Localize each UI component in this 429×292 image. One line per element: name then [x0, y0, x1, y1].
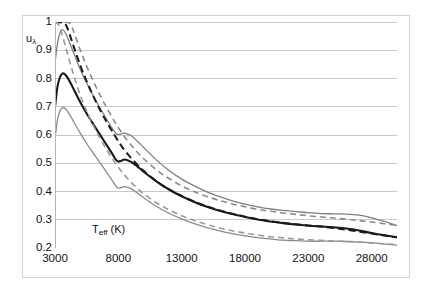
curve-upper-dashed-gray	[55, 22, 397, 225]
plot-area	[55, 22, 397, 248]
x-axis-tick-labels: 3000800013000180002300028000	[55, 252, 397, 272]
y-axis-tick-label: 1	[22, 16, 52, 28]
y-axis-tick-label: 0.5	[22, 157, 52, 169]
x-axis-tick-label: 23000	[292, 252, 324, 264]
y-axis-tick-label: 0.7	[22, 101, 52, 113]
data-curves	[55, 22, 397, 245]
y-axis-tick-labels: 10.90.80.70.60.50.40.30.2	[22, 22, 52, 248]
x-axis-title-unit: (K)	[107, 223, 125, 235]
y-axis-tick-label: 0.4	[22, 186, 52, 198]
y-axis-title-subscript: λ	[32, 37, 36, 46]
y-axis-title: uλ	[26, 33, 36, 47]
x-axis-tick-label: 8000	[106, 252, 132, 264]
x-axis-tick-label: 13000	[166, 252, 198, 264]
y-axis-tick-label: 0.8	[22, 73, 52, 85]
x-axis-title-main: T	[92, 223, 99, 235]
curve-mean-solid-black	[55, 73, 397, 237]
curve-lower-dashed-gray	[55, 22, 397, 244]
plot-svg	[55, 22, 397, 248]
x-axis-tick-label: 28000	[356, 252, 388, 264]
curve-upper-envelope-solid-gray	[55, 30, 397, 226]
y-axis-tick-label: 0.3	[22, 214, 52, 226]
x-axis-tick-label: 3000	[42, 252, 68, 264]
figure-container: 10.90.80.70.60.50.40.30.2 uλ 30008000130…	[0, 0, 429, 292]
x-axis-tick-label: 18000	[229, 252, 261, 264]
x-axis-title: Teff (K)	[92, 224, 125, 238]
curve-mean-dashed-black	[55, 22, 397, 237]
y-axis-tick-label: 0.6	[22, 129, 52, 141]
